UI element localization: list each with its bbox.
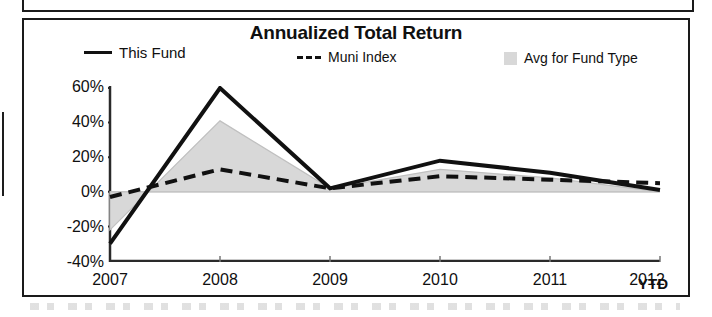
legend-label-avg-for-fund-type: Avg for Fund Type: [524, 50, 638, 66]
x-tick-2010: 2010: [410, 272, 470, 288]
dashed-line-swatch-icon: [297, 56, 321, 59]
x-tick-2007: 2007: [80, 272, 140, 288]
y-tick-40: 40%: [48, 114, 104, 130]
x-axis-tick-labels: 2007 2008 2009 2010 2011 2012: [108, 272, 674, 296]
left-edge-rule-fragment: [2, 112, 4, 196]
partial-box-above: [22, 0, 694, 12]
y-tick-20: 20%: [48, 149, 104, 165]
y-tick-60: 60%: [48, 79, 104, 95]
y-axis-tick-labels: 60% 40% 20% 0% -20% -40%: [46, 86, 104, 262]
solid-line-swatch-icon: [84, 51, 112, 54]
chart-panel: Annualized Total Return This Fund Muni I…: [22, 18, 690, 297]
y-tick-0: 0%: [48, 184, 104, 200]
legend-label-muni-index: Muni Index: [328, 49, 396, 65]
x-axis-ytd-label: YTD: [638, 275, 668, 292]
legend-item-muni-index: Muni Index: [297, 49, 396, 65]
legend-item-this-fund: This Fund: [84, 44, 186, 61]
y-tick-neg20: -20%: [48, 219, 104, 235]
x-tick-2011: 2011: [520, 272, 580, 288]
legend-label-this-fund: This Fund: [119, 44, 186, 61]
chart-plot-svg: [108, 86, 664, 262]
x-tick-2008: 2008: [190, 272, 250, 288]
scan-artifact-text-row: [30, 303, 680, 310]
y-tick-neg40: -40%: [48, 254, 104, 270]
chart-legend: This Fund Muni Index Avg for Fund Type: [24, 42, 688, 68]
plot-area: [108, 86, 664, 262]
chart-title: Annualized Total Return: [24, 22, 688, 44]
legend-item-avg-for-fund-type: Avg for Fund Type: [504, 50, 638, 66]
area-fill-swatch-icon: [504, 52, 517, 65]
x-tick-2009: 2009: [300, 272, 360, 288]
